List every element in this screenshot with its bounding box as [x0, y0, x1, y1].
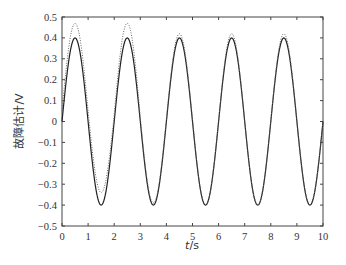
x-tick-label: 4: [164, 231, 170, 242]
data-series: [62, 23, 323, 205]
x-tick-label: 9: [294, 231, 299, 242]
series-actual-line: [62, 38, 323, 205]
y-tick-label: 0.3: [44, 53, 57, 64]
series-estimate-line: [62, 23, 323, 205]
x-tick-label: 0: [59, 231, 64, 242]
y-tick-label: 0: [52, 116, 57, 127]
x-tick-label: 7: [242, 231, 247, 242]
y-tick-label: −0.4: [38, 200, 58, 211]
y-tick-label: −0.1: [38, 137, 57, 148]
y-tick-label: 0.4: [44, 32, 58, 43]
x-tick-label: 2: [112, 231, 117, 242]
x-axis-label: t/s: [185, 239, 199, 252]
line-chart: 012345678910 0.50.40.30.20.10−0.1−0.2−0.…: [0, 0, 346, 265]
y-tick-label: −0.2: [38, 158, 57, 169]
y-tick-label: 0.2: [44, 74, 57, 85]
x-tick-label: 10: [318, 231, 329, 242]
x-tick-label: 1: [85, 231, 90, 242]
y-tick-label: 0.5: [44, 12, 57, 23]
y-tick-label: −0.5: [38, 221, 57, 232]
y-tick-label: −0.3: [38, 179, 57, 190]
x-tick-label: 8: [268, 231, 273, 242]
y-tick-label: 0.1: [44, 95, 57, 106]
x-axis-label-unit: /s: [189, 239, 199, 252]
x-tick-label: 6: [216, 231, 221, 242]
y-axis-label: 故障估计/V: [12, 93, 26, 149]
x-tick-label: 3: [138, 231, 143, 242]
